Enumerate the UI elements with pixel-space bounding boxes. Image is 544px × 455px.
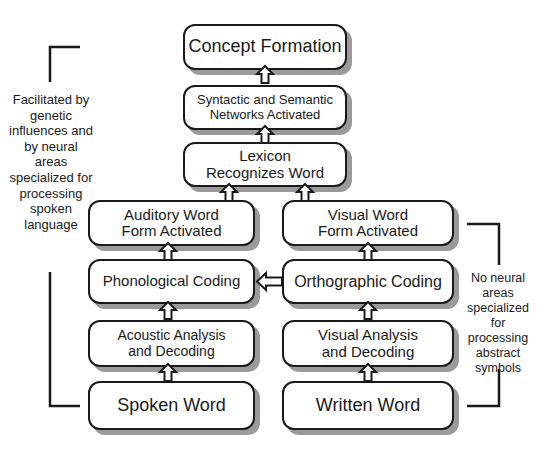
- arrow-up-icon: [360, 302, 376, 319]
- arrow-up-icon: [297, 184, 313, 201]
- right-note-text: No neural areas specialized for processi…: [467, 271, 529, 375]
- arrow-up-icon: [160, 302, 176, 319]
- arrow-up-icon: [360, 243, 376, 260]
- arrow-up-icon: [221, 184, 237, 201]
- arrow-up-icon: [360, 364, 376, 381]
- arrow-left-icon: [257, 273, 282, 290]
- right-note: No neural areas specialized for processi…: [463, 271, 533, 376]
- left-note: Facilitated by genetic influences and by…: [8, 92, 94, 232]
- arrow-up-icon: [257, 126, 273, 143]
- arrow-up-icon: [257, 66, 273, 83]
- arrow-up-icon: [160, 364, 176, 381]
- left-note-text: Facilitated by genetic influences and by…: [9, 92, 93, 232]
- arrow-up-icon: [160, 243, 176, 260]
